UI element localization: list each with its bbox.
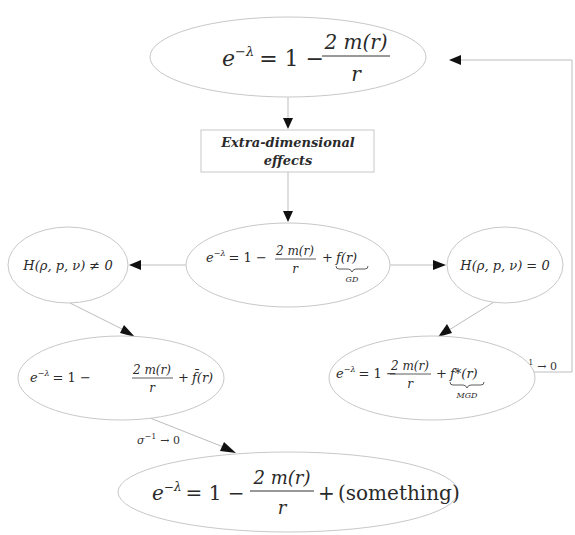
svg-text:+: + <box>178 370 189 385</box>
svg-text:+: + <box>318 481 335 505</box>
svg-text:Extra-dimensional: Extra-dimensional <box>220 135 355 150</box>
arrowhead-left-icon <box>129 260 141 270</box>
flowchart-canvas: σ−1→ 0 σ−1→ 0 e−λ= 1 − 2 m(r) r Extra-di… <box>0 0 575 535</box>
arrowhead-down-icon <box>283 118 293 129</box>
svg-text:H(ρ, p, ν) = 0: H(ρ, p, ν) = 0 <box>459 258 549 273</box>
svg-text:H(ρ, p, ν) ≠ 0: H(ρ, p, ν) ≠ 0 <box>22 258 112 273</box>
svg-text:MGD: MGD <box>456 391 479 400</box>
svg-text:+: + <box>436 366 447 381</box>
edge-mgd-to-schwarzschild <box>460 60 572 372</box>
svg-text:2 m(r): 2 m(r) <box>253 467 311 488</box>
svg-text:2 m(r): 2 m(r) <box>132 363 171 377</box>
svg-text:f̄(r): f̄(r) <box>191 369 213 385</box>
svg-text:(something): (something) <box>338 481 460 505</box>
node-gd: e−λ= 1 − 2 m(r) r + f(r) GD <box>186 223 390 307</box>
svg-text:2 m(r): 2 m(r) <box>275 244 314 258</box>
node-something: e−λ= 1 − 2 m(r) r + (something) <box>118 452 460 532</box>
svg-text:GD: GD <box>346 275 359 284</box>
node-schwarzschild: e−λ= 1 − 2 m(r) r <box>150 17 426 97</box>
arrowhead-diag-icon <box>120 325 135 337</box>
edge-h-zero-to-mgd <box>449 302 494 330</box>
svg-text:2 m(r): 2 m(r) <box>390 359 429 373</box>
arrowhead-diag-icon <box>220 442 236 453</box>
arrowhead-down-icon <box>283 211 293 222</box>
arrowhead-diag-icon <box>438 324 452 337</box>
svg-text:effects: effects <box>264 153 313 168</box>
svg-text:r: r <box>351 62 362 86</box>
svg-text:f*(r): f*(r) <box>449 366 478 381</box>
svg-text:+: + <box>322 250 333 265</box>
svg-text:r: r <box>278 497 288 518</box>
svg-text:2 m(r): 2 m(r) <box>323 30 387 54</box>
node-extra-dimensional-effects: Extra-dimensional effects <box>201 130 374 172</box>
arrowhead-right-icon <box>433 260 446 270</box>
node-h-zero: H(ρ, p, ν) = 0 <box>447 227 563 303</box>
node-mgd: e−λ= 1 − 2 m(r) r + f*(r) MGD <box>329 336 535 420</box>
node-h-nonzero: H(ρ, p, ν) ≠ 0 <box>8 227 128 303</box>
edge-label-sigma-left: σ−1→ 0 <box>137 432 180 447</box>
svg-text:f(r): f(r) <box>335 250 357 265</box>
edge-h-nonzero-to-fbar <box>70 303 126 331</box>
arrowhead-left-icon <box>449 55 461 65</box>
node-fbar: e−λ= 1 − 2 m(r) r + f̄(r) <box>18 336 224 420</box>
